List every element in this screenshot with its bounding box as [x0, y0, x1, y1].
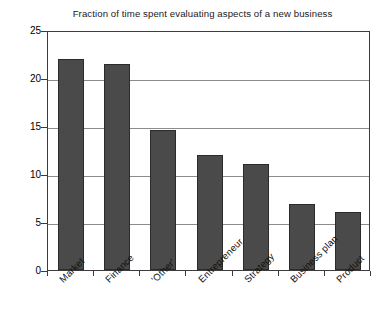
bar [58, 59, 84, 270]
gridline [48, 128, 369, 129]
bar-chart: Fraction of time spent evaluating aspect… [0, 0, 387, 335]
bar [104, 64, 130, 270]
plot-area [47, 31, 370, 271]
x-axis-labels: MarketFinance'Other'EntrepreneurStrategy… [47, 271, 387, 335]
bar [150, 130, 176, 270]
chart-title: Fraction of time spent evaluating aspect… [30, 8, 375, 20]
y-axis-ticks [0, 31, 47, 271]
gridline [48, 80, 369, 81]
